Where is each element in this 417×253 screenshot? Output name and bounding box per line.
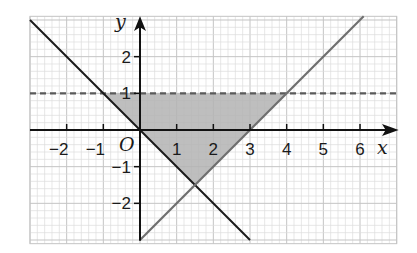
x-tick-label: 6 (355, 140, 364, 159)
y-tick-label: −1 (112, 158, 131, 177)
x-tick-label: −2 (49, 140, 68, 159)
y-tick-label: 1 (122, 84, 131, 103)
x-axis-label: x (377, 136, 388, 158)
x-tick-label: 1 (172, 140, 181, 159)
x-tick-label: 2 (209, 140, 218, 159)
y-axis-label: y (114, 10, 126, 32)
x-tick-label: 5 (319, 140, 328, 159)
x-tick-label: 4 (282, 140, 291, 159)
origin-label: O (119, 133, 135, 155)
inequality-graph: −2−1123456 21−1−2 x y O (0, 0, 417, 253)
x-tick-label: −1 (86, 140, 105, 159)
y-tick-label: −2 (112, 194, 131, 213)
x-tick-label: 3 (245, 140, 254, 159)
y-tick-label: 2 (122, 48, 131, 67)
